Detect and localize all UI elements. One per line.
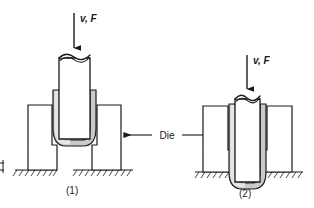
punch-2 <box>235 99 260 182</box>
stage-2-assembly: v, F (2) <box>195 55 303 199</box>
deep-drawing-figure: v, F (1) Die <box>0 0 314 208</box>
force-label-1: v, F <box>80 13 98 24</box>
figure-canvas: v, F (1) Die <box>0 0 314 208</box>
stage-caption-2: (2) <box>239 188 251 199</box>
punch-1 <box>59 58 90 139</box>
stage-1-assembly: v, F (1) <box>13 13 133 196</box>
force-label-2: v, F <box>253 55 271 66</box>
ground-hatch-icon-right-2 <box>262 172 303 178</box>
ground-hatch-icon-right-1 <box>73 170 133 176</box>
ground-hatch-icon-left-2 <box>195 172 233 178</box>
stage-caption-1: (1) <box>66 185 78 196</box>
edge-crop-artifact <box>0 160 4 173</box>
ground-hatch-icon-left-1 <box>13 170 57 176</box>
die-callout: Die <box>124 130 210 141</box>
die-label: Die <box>159 130 174 141</box>
